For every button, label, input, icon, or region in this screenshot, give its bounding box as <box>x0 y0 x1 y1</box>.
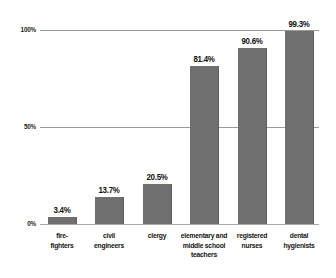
category-label-line: teachers <box>176 250 232 260</box>
bar-value-registered-nurses: 90.6% <box>226 36 279 46</box>
category-label-dental-hygienists: dental hygienists <box>271 231 327 250</box>
bar-elementary-and-middle-school-teachers <box>190 66 219 224</box>
y-tick-label-0: 0% <box>11 220 36 227</box>
bar-value-clergy: 20.5% <box>131 172 184 182</box>
plot-area: 100% 50% 0% 3.4% fire- fighters 13.7% ci… <box>0 0 336 278</box>
bar-value-fire-fighters: 3.4% <box>36 205 89 215</box>
y-tick-label-100: 100% <box>11 26 36 33</box>
gridline-100 <box>40 30 319 31</box>
bar-value-dental-hygienists: 99.3% <box>273 19 326 29</box>
gridline-50 <box>40 127 319 128</box>
bar-value-civil-engineers: 13.7% <box>83 185 136 195</box>
bar-registered-nurses <box>238 48 267 224</box>
category-label-line: dental <box>271 231 327 241</box>
category-label-line: hygienists <box>271 241 327 251</box>
bar-clergy <box>143 184 172 224</box>
y-tick-label-50: 50% <box>11 123 36 130</box>
category-label-line: engineers <box>81 241 137 251</box>
gridline-0-baseline <box>40 224 319 225</box>
bar-value-elementary-and-middle-school-teachers: 81.4% <box>178 54 231 64</box>
bar-chart: 100% 50% 0% 3.4% fire- fighters 13.7% ci… <box>0 0 336 278</box>
bar-civil-engineers <box>95 197 124 224</box>
bar-fire-fighters <box>48 217 77 224</box>
bar-dental-hygienists <box>285 31 314 224</box>
